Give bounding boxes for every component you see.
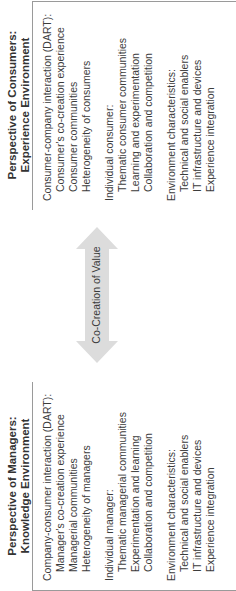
managers-title-line1: Perspective of Managers: (6, 381, 19, 591)
arrow-label: Co-Creation of Value (90, 227, 103, 363)
section-item: Technical and social enablers (178, 55, 191, 201)
consumers-title-line1: Perspective of Consumers: (6, 0, 19, 210)
section-item: Consumer's co-creation experience (54, 14, 67, 201)
section-item: Learning and experimentation (129, 38, 142, 201)
section-item: Experimentation and learning (129, 412, 142, 581)
managers-panel: Perspective of Managers: Knowledge Envir… (0, 381, 236, 591)
section-item: Heterogeneity of consumers (80, 14, 93, 201)
section-item: Collaboration and competition (142, 38, 155, 201)
managers-box: Company-consumer interaction (DART): Man… (32, 382, 236, 591)
section-item: Heterogeneity of managers (80, 394, 93, 581)
consumers-panel: Perspective of Consumers: Experience Env… (0, 0, 236, 210)
co-creation-arrow: Co-Creation of Value (76, 227, 118, 363)
section-heading: Environment characteristics: (165, 435, 178, 581)
section-item: Thematic managerial communities (116, 412, 129, 581)
section-item: Experience integration (204, 435, 217, 581)
consumers-title: Perspective of Consumers: Experience Env… (6, 0, 32, 210)
consumers-section-environment: Environment characteristics: Technical a… (165, 55, 217, 201)
managers-section-individual: Individual manager: Thematic managerial … (103, 412, 155, 581)
managers-section-interaction: Company-consumer interaction (DART): Man… (41, 394, 93, 581)
managers-title: Perspective of Managers: Knowledge Envir… (6, 381, 32, 591)
consumers-section-individual: Individual consumer: Thematic consumer c… (103, 38, 155, 201)
section-item: Experience integration (204, 55, 217, 201)
consumers-box: Consumer-company interaction (DART): Con… (32, 1, 236, 210)
section-item: IT infrastructure and devices (191, 55, 204, 201)
consumers-section-interaction: Consumer-company interaction (DART): Con… (41, 14, 93, 201)
managers-title-line2: Knowledge Environment (19, 381, 32, 591)
section-heading: Company-consumer interaction (DART): (41, 394, 54, 581)
section-item: Collaboration and competition (142, 412, 155, 581)
section-item: Managerial communities (67, 394, 80, 581)
section-heading: Consumer-company interaction (DART): (41, 14, 54, 201)
section-item: IT infrastructure and devices (191, 435, 204, 581)
section-item: Manager's co-creation experience (54, 394, 67, 581)
managers-section-environment: Environment characteristics: Technical a… (165, 435, 217, 581)
section-item: Thematic consumer communities (116, 38, 129, 201)
diagram-canvas: Perspective of Managers: Knowledge Envir… (0, 0, 236, 591)
section-heading: Individual consumer: (103, 38, 116, 201)
section-item: Consumer communities (67, 14, 80, 201)
consumers-title-line2: Experience Environment (19, 0, 32, 210)
section-heading: Individual manager: (103, 412, 116, 581)
section-item: Technical and social enablers (178, 435, 191, 581)
section-heading: Environment characteristics: (165, 55, 178, 201)
